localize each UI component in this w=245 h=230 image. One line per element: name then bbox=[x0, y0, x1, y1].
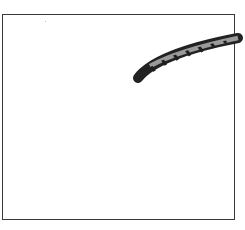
brush-stroke-outline bbox=[138, 38, 238, 78]
brush-stroke-layer bbox=[0, 0, 245, 230]
